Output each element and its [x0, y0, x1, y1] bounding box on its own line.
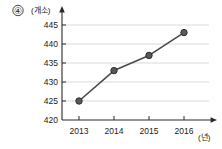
x-tick-label-2016: 2016 [175, 126, 194, 136]
data-point [111, 67, 117, 73]
x-axis [62, 117, 217, 123]
gridlines [62, 25, 209, 101]
y-tick-label-440: 440 [44, 39, 58, 49]
line-chart: ④ (개소) (년) [0, 0, 222, 149]
y-axis-tick-labels: 445 440 435 430 425 420 [44, 20, 58, 125]
y-tick-label-420: 420 [44, 115, 58, 125]
x-axis-tick-labels: 2013 2014 2015 2016 [70, 126, 194, 136]
x-axis-unit-label: (년) [198, 132, 211, 142]
item-number-badge: ④ [13, 5, 23, 15]
data-series-line [79, 33, 184, 101]
y-tick-label-445: 445 [44, 20, 58, 30]
item-number-label: ④ [14, 6, 22, 16]
y-axis-unit-label: (개소) [31, 5, 51, 15]
data-point [146, 52, 152, 58]
x-tick-label-2013: 2013 [70, 126, 89, 136]
data-point [76, 98, 82, 104]
x-axis-ticks [79, 116, 184, 120]
y-tick-label-430: 430 [44, 77, 58, 87]
y-axis-ticks [62, 25, 66, 101]
y-axis-arrow-icon [59, 6, 65, 12]
y-tick-label-435: 435 [44, 58, 58, 68]
data-point [181, 29, 187, 35]
y-tick-label-425: 425 [44, 96, 58, 106]
x-axis-arrow-icon [211, 117, 217, 123]
chart-figure: ④ (개소) (년) [0, 0, 222, 149]
x-tick-label-2014: 2014 [105, 126, 124, 136]
x-tick-label-2015: 2015 [140, 126, 159, 136]
